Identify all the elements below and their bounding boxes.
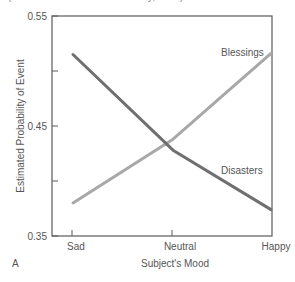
series-label-blessings: Blessings [221, 47, 264, 58]
x-tick-label-happy: Happy [262, 241, 291, 252]
y-axis-title: Estimated Probability of Event [15, 59, 26, 193]
series-line-blessings [73, 53, 271, 203]
x-tick-label-sad: Sad [67, 241, 85, 252]
line-chart: 0.55 0.45 0.35 Estimated Probability of … [0, 0, 295, 282]
x-tick-label-neutral: Neutral [164, 241, 196, 252]
y-tick-label: 0.55 [28, 11, 48, 22]
panel-label: A [12, 258, 19, 269]
x-axis-title: Subject's Mood [141, 258, 209, 269]
y-tick-label: 0.35 [28, 231, 48, 242]
series-label-disasters: Disasters [221, 165, 263, 176]
y-tick-label: 0.45 [28, 121, 48, 132]
